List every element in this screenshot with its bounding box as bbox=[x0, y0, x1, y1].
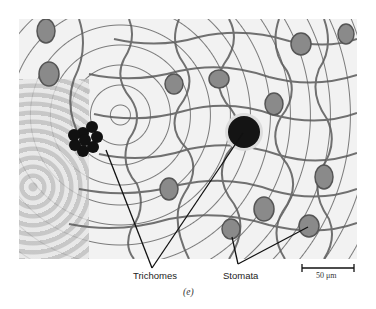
scale-bar-label: 50 μm bbox=[316, 271, 337, 280]
trichomes-label: Trichomes bbox=[133, 270, 177, 281]
leader-lines bbox=[0, 0, 376, 309]
figure: Trichomes Stomata 50 μm (e) bbox=[0, 0, 376, 309]
stomata-label: Stomata bbox=[223, 270, 258, 281]
panel-label: (e) bbox=[183, 287, 194, 297]
